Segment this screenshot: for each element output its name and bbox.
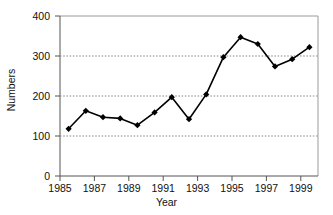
y-axis-title: Numbers: [5, 55, 17, 125]
xtick-label-1999: 1999: [283, 183, 319, 194]
ytick-label-300: 300: [20, 51, 50, 62]
data-series-line: [69, 37, 310, 129]
xtick-label-1995: 1995: [214, 183, 250, 194]
xtick-label-1989: 1989: [111, 183, 147, 194]
gridlines: [60, 56, 318, 136]
ytick-label-200: 200: [20, 91, 50, 102]
xtick-label-1987: 1987: [76, 183, 112, 194]
data-series-markers: [66, 34, 313, 132]
data-point: [100, 114, 106, 120]
x-axis-title: Year: [0, 196, 333, 208]
y-axis-ticks: [55, 16, 60, 176]
line-chart: 0 100 200 300 400 1985 1987 1989 1991 19…: [0, 0, 333, 215]
data-point: [117, 115, 123, 121]
xtick-label-1985: 1985: [42, 183, 78, 194]
ytick-label-400: 400: [20, 11, 50, 22]
x-axis-ticks: [60, 176, 301, 181]
xtick-label-1997: 1997: [248, 183, 284, 194]
xtick-label-1993: 1993: [180, 183, 216, 194]
xtick-label-1991: 1991: [145, 183, 181, 194]
ytick-label-0: 0: [20, 171, 50, 182]
ytick-label-100: 100: [20, 131, 50, 142]
